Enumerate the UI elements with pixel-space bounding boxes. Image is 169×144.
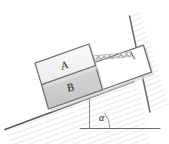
angle-label: α [99,113,104,123]
physics-diagram-svg [0,0,169,144]
figure-canvas: A B α [0,0,169,144]
